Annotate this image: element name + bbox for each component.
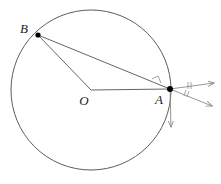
point-dot-A: [167, 86, 173, 92]
point-label-O: O: [79, 93, 89, 108]
point-dot-B: [35, 32, 40, 37]
ray-upper-right: [170, 83, 214, 89]
geometry-canvas: B O A: [0, 0, 221, 184]
point-label-A: A: [154, 92, 163, 107]
ray-lower-right: [170, 89, 212, 106]
geometry-figure: B O A: [0, 0, 221, 184]
segment-chord-BA: [38, 35, 170, 89]
segment-radius-OA: [91, 89, 170, 90]
point-label-B: B: [20, 21, 28, 36]
segment-radius-OB: [38, 35, 91, 90]
